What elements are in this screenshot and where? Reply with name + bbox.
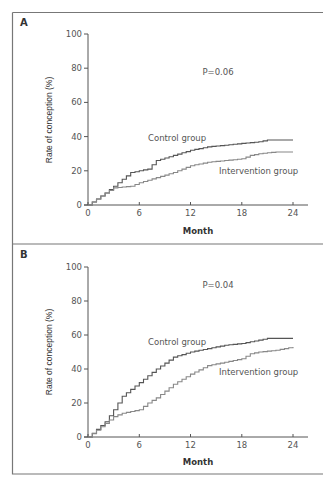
p-value: P=0.04 — [202, 280, 233, 290]
y-axis-label: Rate of conception (%) — [44, 309, 54, 396]
panel-letter: B — [20, 249, 28, 260]
x-tick-label: 0 — [85, 440, 90, 450]
y-tick-label: 0 — [77, 200, 82, 210]
y-tick-label: 60 — [71, 97, 82, 107]
intervention-group-curve — [88, 347, 293, 437]
figure-frame — [13, 13, 324, 475]
control-group-label: Control group — [148, 133, 206, 143]
x-axis-label: Month — [183, 226, 213, 236]
y-tick-label: 80 — [71, 296, 82, 306]
x-tick-label: 12 — [185, 440, 196, 450]
y-tick-label: 40 — [71, 364, 82, 374]
y-tick-label: 100 — [66, 29, 82, 39]
y-tick-label: 20 — [71, 166, 82, 176]
intervention-group-curve — [88, 152, 293, 205]
x-tick-label: 24 — [288, 208, 299, 218]
y-tick-label: 40 — [71, 132, 82, 142]
x-tick-label: 0 — [85, 208, 90, 218]
y-tick-label: 100 — [66, 262, 82, 272]
x-tick-label: 6 — [137, 440, 142, 450]
p-value: P=0.06 — [202, 67, 233, 77]
x-tick-label: 18 — [236, 440, 247, 450]
x-tick-label: 12 — [185, 208, 196, 218]
intervention-group-label: Intervention group — [219, 367, 298, 377]
panel-a: A 0 20 40 60 80 100 0 6 12 — [20, 17, 308, 236]
x-ticks: 0 6 12 18 24 — [85, 202, 298, 218]
y-tick-label: 60 — [71, 330, 82, 340]
x-tick-label: 18 — [236, 208, 247, 218]
control-group-curve — [88, 338, 293, 437]
x-tick-label: 6 — [137, 208, 142, 218]
intervention-group-label: Intervention group — [219, 166, 298, 176]
figure: A 0 20 40 60 80 100 0 6 12 — [0, 0, 336, 491]
control-group-label: Control group — [148, 337, 206, 347]
y-axis-label: Rate of conception (%) — [44, 77, 54, 164]
y-ticks: 0 20 40 60 80 100 — [66, 29, 88, 210]
y-ticks: 0 20 40 60 80 100 — [66, 262, 88, 442]
x-axis-label: Month — [183, 457, 213, 467]
x-ticks: 0 6 12 18 24 — [85, 434, 298, 450]
y-tick-label: 0 — [77, 432, 82, 442]
y-tick-label: 20 — [71, 398, 82, 408]
panel-letter: A — [20, 17, 28, 28]
x-tick-label: 24 — [288, 440, 299, 450]
panel-b: B 0 20 40 60 80 100 0 6 12 18 — [20, 249, 308, 467]
y-tick-label: 80 — [71, 63, 82, 73]
